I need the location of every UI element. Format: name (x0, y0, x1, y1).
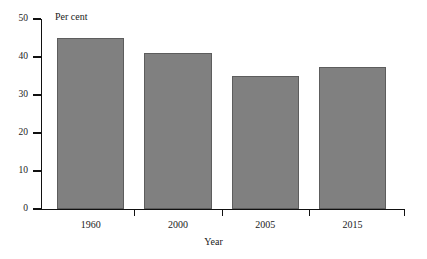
x-axis-tick-label: 2015 (317, 220, 387, 230)
y-axis-tick-label: 0 (6, 204, 28, 214)
y-axis-tick (33, 132, 41, 133)
bar-chart: Per cent 01020304050 1960200020052015 Ye… (0, 0, 427, 259)
y-axis-tick-label: 20 (6, 128, 28, 138)
x-axis-line (41, 209, 405, 210)
x-axis-tick (134, 210, 135, 216)
y-axis-title: Per cent (55, 12, 88, 22)
x-axis-title: Year (0, 237, 427, 247)
y-axis-line (41, 19, 42, 210)
x-axis-tick-label: 2000 (143, 220, 213, 230)
bar (232, 76, 299, 209)
bar (319, 67, 386, 210)
bar (57, 38, 124, 209)
x-axis-tick (309, 210, 310, 216)
y-axis-tick (33, 208, 41, 209)
x-axis-tick-label: 2005 (230, 220, 300, 230)
y-axis-tick-label: 30 (6, 90, 28, 100)
x-axis-tick (222, 210, 223, 216)
bar (144, 53, 211, 209)
x-axis-end-tick (404, 210, 405, 216)
y-axis-tick (33, 18, 41, 19)
y-axis-tick-label: 50 (6, 14, 28, 24)
y-axis-tick-label: 40 (6, 52, 28, 62)
y-axis-tick (33, 94, 41, 95)
y-axis-tick (33, 170, 41, 171)
x-axis-tick-label: 1960 (56, 220, 126, 230)
y-axis-tick-label: 10 (6, 166, 28, 176)
y-axis-tick (33, 56, 41, 57)
